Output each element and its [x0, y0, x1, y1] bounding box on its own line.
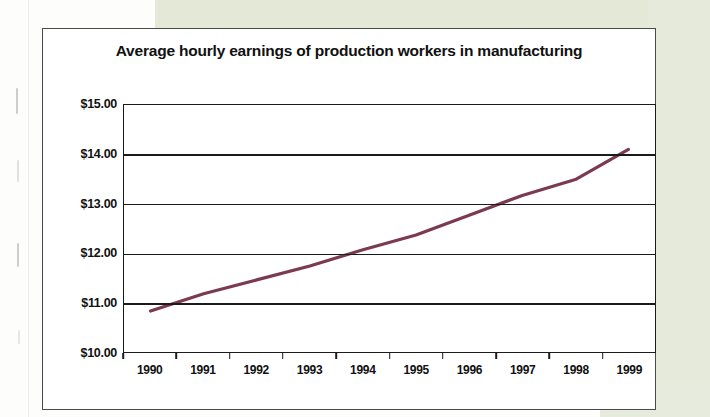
x-axis-tick-label: 1991 — [190, 363, 216, 377]
x-axis-tick-label: 1997 — [510, 363, 536, 377]
y-axis-tick-label: $11.00 — [45, 296, 117, 310]
y-axis-tick-label: $10.00 — [45, 346, 117, 360]
gridline — [124, 254, 655, 256]
chart-title: Average hourly earnings of production wo… — [89, 41, 609, 62]
x-axis-tick-label: 1994 — [350, 363, 376, 377]
x-axis-tick-label: 1990 — [137, 363, 163, 377]
x-axis-tick-labels: 1990199119921993199419951996199719981999 — [123, 363, 656, 383]
y-axis-tick-label: $15.00 — [45, 97, 117, 111]
y-axis-tick-label: $14.00 — [45, 147, 117, 161]
gridline — [124, 154, 655, 156]
x-axis-tick — [549, 353, 551, 359]
x-axis-tick-label: 1998 — [563, 363, 589, 377]
plot-area — [123, 104, 656, 353]
scan-artifact-mark — [17, 160, 19, 182]
x-axis-tick — [282, 353, 284, 359]
chart-card: Average hourly earnings of production wo… — [42, 28, 656, 410]
series-line-average-hourly-earnings — [151, 149, 629, 311]
x-axis-tick — [602, 353, 604, 359]
x-axis-tick — [176, 353, 178, 359]
x-axis-tick — [229, 353, 231, 359]
scan-artifact-mark — [16, 88, 18, 114]
x-axis-tick-label: 1993 — [297, 363, 323, 377]
x-axis-tick — [122, 353, 124, 359]
y-axis-tick-labels: $15.00$14.00$13.00$12.00$11.00$10.00 — [43, 104, 117, 353]
x-axis-tick — [389, 353, 391, 359]
scan-edge-line — [28, 0, 29, 417]
x-axis-ticks — [123, 353, 656, 359]
x-axis-tick — [335, 353, 337, 359]
gridline — [124, 204, 655, 206]
x-axis-tick — [442, 353, 444, 359]
y-axis-tick-label: $13.00 — [45, 197, 117, 211]
x-axis-tick — [495, 353, 497, 359]
gridline — [124, 303, 655, 305]
x-axis-tick-label: 1995 — [403, 363, 429, 377]
x-axis-tick-label: 1999 — [617, 363, 643, 377]
scan-background-band-right — [648, 0, 710, 417]
x-axis-tick-label: 1992 — [244, 363, 270, 377]
scan-artifact-mark — [17, 243, 19, 267]
x-axis-tick-label: 1996 — [457, 363, 483, 377]
scan-artifact-mark — [18, 330, 20, 344]
line-series-svg — [124, 105, 655, 352]
scan-background-band-top — [155, 0, 710, 30]
y-axis-tick-label: $12.00 — [45, 246, 117, 260]
